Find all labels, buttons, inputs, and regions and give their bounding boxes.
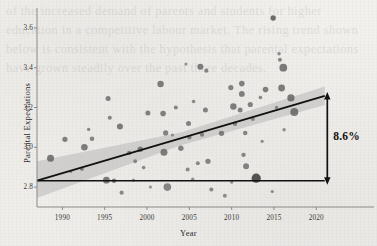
x-axis-title: Year — [0, 228, 377, 238]
data-point — [197, 64, 203, 70]
x-tick-label: 1995 — [92, 214, 118, 222]
data-point — [270, 15, 275, 20]
data-point — [238, 107, 243, 112]
data-point — [186, 121, 191, 126]
x-tick-label: 2010 — [219, 214, 245, 222]
data-point — [259, 96, 263, 100]
data-point — [290, 108, 298, 116]
scatter-plot-figure — [0, 0, 377, 246]
data-point — [196, 161, 200, 165]
y-tick-label: 3.6 — [16, 24, 33, 32]
data-point — [241, 153, 245, 157]
data-point — [239, 91, 245, 97]
y-axis-title: Parental Expectations — [22, 68, 32, 178]
data-point — [263, 87, 269, 93]
data-point — [163, 130, 168, 135]
data-point — [204, 69, 208, 73]
data-point — [157, 81, 163, 87]
annotation-arrow-head-down — [324, 177, 330, 185]
data-point — [174, 106, 178, 110]
data-point — [90, 136, 95, 141]
data-point — [108, 116, 112, 120]
data-point — [164, 183, 172, 191]
data-point — [120, 191, 124, 195]
data-point — [186, 168, 190, 172]
annotation-arrow-head-up — [324, 92, 330, 100]
data-point — [160, 149, 167, 156]
data-point — [145, 111, 150, 116]
data-point — [192, 100, 196, 104]
data-point — [205, 159, 210, 164]
data-point — [203, 107, 208, 112]
x-tick-label: 2000 — [134, 214, 160, 222]
x-tick-label: 2020 — [303, 214, 329, 222]
data-point — [117, 123, 123, 129]
data-point — [219, 131, 224, 136]
data-point — [278, 85, 285, 92]
data-point — [239, 81, 245, 87]
data-point — [149, 186, 152, 189]
x-tick-label: 2005 — [176, 214, 202, 222]
regression-line — [37, 96, 325, 181]
data-point — [243, 163, 249, 169]
data-point — [133, 159, 137, 163]
data-point — [287, 94, 294, 101]
data-point — [223, 194, 227, 198]
y-tick-label: 2.8 — [16, 183, 33, 191]
annotation-label-percent: 8.6% — [333, 130, 360, 142]
y-tick-label: 3.2 — [16, 104, 33, 112]
data-point — [47, 155, 54, 162]
data-point — [228, 85, 233, 90]
data-point — [184, 63, 187, 66]
data-point — [106, 96, 111, 101]
data-point — [275, 106, 278, 109]
data-point — [282, 128, 285, 131]
data-point — [278, 58, 282, 62]
data-point — [271, 190, 274, 193]
data-point — [171, 133, 174, 136]
data-point — [142, 166, 146, 170]
data-point — [277, 52, 280, 55]
data-point — [209, 187, 213, 191]
data-point — [81, 144, 88, 151]
data-point — [279, 64, 287, 72]
data-point — [178, 146, 183, 151]
data-point — [160, 111, 166, 117]
y-tick-label: 3.4 — [16, 64, 33, 72]
data-point — [243, 131, 248, 136]
x-tick-label: 1990 — [49, 214, 75, 222]
data-point — [230, 103, 236, 109]
data-point — [62, 137, 67, 142]
data-point — [248, 102, 253, 107]
y-tick-label: 3.0 — [16, 143, 33, 151]
data-point — [87, 128, 90, 131]
plot-canvas — [0, 0, 377, 246]
x-tick-label: 2015 — [261, 214, 287, 222]
data-point — [261, 140, 264, 143]
